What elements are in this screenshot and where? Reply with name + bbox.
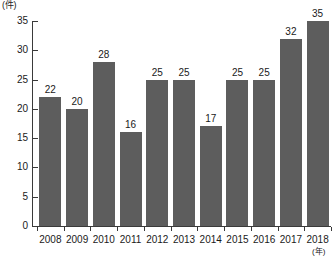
bar-value-label: 25 — [152, 67, 163, 78]
x-tick-mark — [304, 227, 305, 231]
bar-value-label: 17 — [205, 113, 216, 124]
x-tick-label: 2008 — [39, 234, 61, 245]
x-tick-label: 2017 — [280, 234, 302, 245]
y-tick-mark — [33, 197, 38, 198]
x-tick-mark — [144, 227, 145, 231]
x-tick-label: 2018 — [307, 234, 329, 245]
x-tick-mark — [278, 227, 279, 231]
x-tick-mark — [64, 227, 65, 231]
bar-value-label: 25 — [178, 67, 189, 78]
bar: 20 — [66, 109, 88, 226]
bar: 32 — [280, 39, 302, 226]
bar: 35 — [307, 21, 329, 226]
bar-value-label: 35 — [312, 8, 323, 19]
y-tick-label: 0 — [22, 221, 28, 231]
x-tick-mark — [90, 227, 91, 231]
y-axis-unit-label: (件) — [2, 0, 16, 11]
bar: 25 — [226, 80, 248, 226]
y-tick-label: 5 — [22, 192, 28, 202]
bar: 16 — [120, 132, 142, 226]
x-tick-label: 2016 — [253, 234, 275, 245]
y-tick-mark — [33, 167, 38, 168]
x-tick-mark — [117, 227, 118, 231]
x-tick-mark — [197, 227, 198, 231]
bar-value-label: 16 — [125, 119, 136, 130]
y-tick-mark — [33, 21, 38, 22]
y-tick-label: 15 — [17, 133, 28, 143]
y-tick-mark — [33, 109, 38, 110]
bar: 28 — [93, 62, 115, 226]
x-axis-line — [32, 226, 331, 227]
x-axis-unit-label: (年) — [312, 247, 325, 256]
y-tick-label: 25 — [17, 75, 28, 85]
x-tick-mark — [224, 227, 225, 231]
x-tick-mark — [251, 227, 252, 231]
bar-value-label: 25 — [232, 67, 243, 78]
x-tick-mark — [331, 227, 332, 231]
y-tick-label: 35 — [17, 16, 28, 26]
bar: 25 — [146, 80, 168, 226]
bar-chart: (件) 05101520253035 222028162525172525323… — [0, 0, 333, 264]
bar-value-label: 25 — [259, 67, 270, 78]
y-tick-mark — [33, 50, 38, 51]
bar-value-label: 28 — [98, 49, 109, 60]
bar: 17 — [200, 126, 222, 226]
x-tick-label: 2010 — [93, 234, 115, 245]
x-tick-label: 2012 — [146, 234, 168, 245]
y-tick-label: 30 — [17, 45, 28, 55]
x-tick-mark — [171, 227, 172, 231]
bar-value-label: 32 — [285, 26, 296, 37]
bar: 25 — [173, 80, 195, 226]
bar-value-label: 20 — [72, 96, 83, 107]
x-tick-label: 2013 — [173, 234, 195, 245]
x-tick-label: 2009 — [66, 234, 88, 245]
bar: 25 — [253, 80, 275, 226]
x-tick-label: 2011 — [120, 234, 142, 245]
x-tick-label: 2015 — [226, 234, 248, 245]
bar-value-label: 22 — [45, 84, 56, 95]
y-tick-mark — [33, 138, 38, 139]
bar: 22 — [39, 97, 61, 226]
y-tick-label: 10 — [17, 162, 28, 172]
plot-area: 05101520253035 2220281625251725253235 20… — [32, 21, 331, 226]
y-tick-label: 20 — [17, 104, 28, 114]
y-tick-mark — [33, 80, 38, 81]
x-tick-mark — [37, 227, 38, 231]
x-tick-label: 2014 — [200, 234, 222, 245]
